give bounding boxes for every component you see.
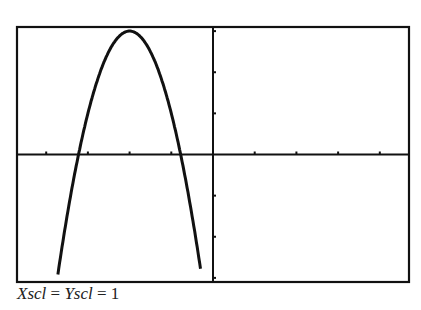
scale-caption: Xscl = Yscl = 1 [17,284,119,304]
equals-sign: = [46,284,64,303]
yscl-label: Yscl [64,284,92,303]
graph-plot [0,0,421,284]
axes [17,27,409,282]
scale-value: = 1 [93,284,120,303]
xscl-label: Xscl [17,284,46,303]
